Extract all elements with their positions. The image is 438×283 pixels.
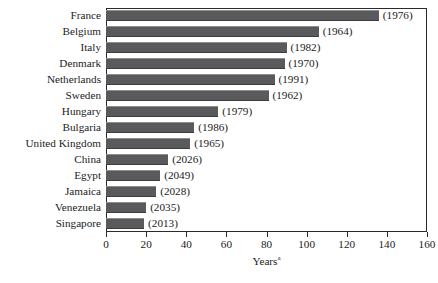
bar bbox=[106, 58, 285, 69]
category-label: Denmark bbox=[59, 58, 101, 69]
x-tick-label: 0 bbox=[103, 239, 109, 250]
bar bbox=[106, 26, 319, 37]
bar bbox=[106, 138, 190, 149]
bar bbox=[106, 90, 269, 101]
bar bbox=[106, 10, 379, 21]
bar-value-label: (1976) bbox=[383, 10, 413, 21]
x-tick-mark bbox=[267, 232, 268, 237]
bar-row: Jamaica(2028) bbox=[106, 184, 427, 200]
x-tick-label: 80 bbox=[261, 239, 272, 250]
bar bbox=[106, 170, 160, 181]
bar-row: Belgium(1964) bbox=[106, 24, 427, 40]
bar-value-label: (2035) bbox=[150, 202, 180, 213]
x-tick-mark bbox=[387, 232, 388, 237]
x-tick-label: 120 bbox=[338, 239, 355, 250]
bar-row: United Kingdom(1965) bbox=[106, 136, 427, 152]
bar-chart-figure: France(1976)Belgium(1964)Italy(1982)Denm… bbox=[0, 0, 438, 283]
bar-row: Netherlands(1991) bbox=[106, 72, 427, 88]
category-label: United Kingdom bbox=[25, 138, 101, 149]
category-label: Bulgaria bbox=[62, 122, 101, 133]
bar-value-label: (1986) bbox=[198, 122, 228, 133]
bar-row: France(1976) bbox=[106, 8, 427, 24]
bar-value-label: (1979) bbox=[222, 106, 252, 117]
bar-row: Egypt(2049) bbox=[106, 168, 427, 184]
category-label: China bbox=[74, 154, 101, 165]
bar-value-label: (1970) bbox=[289, 58, 319, 69]
x-tick-mark bbox=[106, 232, 107, 237]
bar-value-label: (2028) bbox=[160, 186, 190, 197]
bar bbox=[106, 106, 218, 117]
category-label: France bbox=[71, 10, 101, 21]
bar-value-label: (1962) bbox=[273, 90, 303, 101]
x-axis-title: Yearsa bbox=[106, 256, 427, 267]
x-tick-label: 60 bbox=[221, 239, 232, 250]
bar-row: Italy(1982) bbox=[106, 40, 427, 56]
bar-row: Denmark(1970) bbox=[106, 56, 427, 72]
x-tick-mark bbox=[347, 232, 348, 237]
x-tick-mark bbox=[427, 232, 428, 237]
bar-row: Sweden(1962) bbox=[106, 88, 427, 104]
x-tick-label: 20 bbox=[141, 239, 152, 250]
x-tick-label: 40 bbox=[181, 239, 192, 250]
bar-row: Singapore(2013) bbox=[106, 216, 427, 232]
category-label: Jamaica bbox=[65, 186, 101, 197]
category-label: Singapore bbox=[56, 218, 101, 229]
bar-row: Bulgaria(1986) bbox=[106, 120, 427, 136]
bar-value-label: (1965) bbox=[194, 138, 224, 149]
bar-value-label: (1991) bbox=[279, 74, 309, 85]
bar bbox=[106, 42, 287, 53]
x-tick-mark bbox=[226, 232, 227, 237]
category-label: Egypt bbox=[74, 170, 101, 181]
category-label: Sweden bbox=[66, 90, 101, 101]
bar bbox=[106, 202, 146, 213]
bar bbox=[106, 218, 144, 229]
category-label: Hungary bbox=[62, 106, 101, 117]
bar-value-label: (2026) bbox=[172, 154, 202, 165]
x-tick-label: 140 bbox=[378, 239, 395, 250]
x-axis-title-footnote-marker: a bbox=[277, 254, 280, 262]
bar-row: Venezuela(2035) bbox=[106, 200, 427, 216]
bar bbox=[106, 122, 194, 133]
x-axis: 020406080100120140160 Yearsa bbox=[106, 232, 427, 272]
bar bbox=[106, 154, 168, 165]
bar-value-label: (1982) bbox=[291, 42, 321, 53]
bar-value-label: (1964) bbox=[323, 26, 353, 37]
category-label: Venezuela bbox=[55, 202, 101, 213]
bar-value-label: (2049) bbox=[164, 170, 194, 181]
x-tick-mark bbox=[186, 232, 187, 237]
x-tick-mark bbox=[146, 232, 147, 237]
category-label: Belgium bbox=[62, 26, 101, 37]
x-tick-label: 100 bbox=[298, 239, 315, 250]
bar-row: Hungary(1979) bbox=[106, 104, 427, 120]
category-label: Netherlands bbox=[47, 74, 101, 85]
bar bbox=[106, 74, 275, 85]
bar-row: China(2026) bbox=[106, 152, 427, 168]
category-label: Italy bbox=[80, 42, 101, 53]
bar bbox=[106, 186, 156, 197]
x-tick-mark bbox=[307, 232, 308, 237]
x-tick-label: 160 bbox=[419, 239, 436, 250]
bar-value-label: (2013) bbox=[148, 218, 178, 229]
